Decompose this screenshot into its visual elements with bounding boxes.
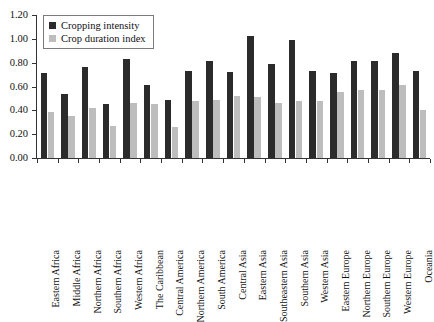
x-axis-tick-mark (244, 159, 245, 163)
x-axis-line (36, 158, 430, 159)
bar (41, 73, 48, 158)
bar (123, 59, 130, 158)
bar-group (202, 15, 223, 158)
x-axis-tick-mark (327, 159, 328, 163)
bar (247, 36, 254, 158)
bar (61, 94, 68, 158)
x-axis-tick-mark (78, 159, 79, 163)
x-axis-tick-label: Northern America (196, 250, 206, 322)
bar (68, 116, 75, 158)
bar (144, 85, 151, 158)
x-axis-tick-mark (389, 159, 390, 163)
bar (130, 103, 137, 158)
bar-group (368, 15, 389, 158)
y-axis: 0.000.200.400.600.801.001.20 (0, 0, 32, 253)
legend-swatch-icon (49, 22, 56, 29)
y-axis-tick-label: 0.00 (10, 153, 28, 163)
x-axis-tick-mark (285, 159, 286, 163)
x-axis-tick-mark (99, 159, 100, 163)
x-axis-tick-mark (140, 159, 141, 163)
x-axis-tick-label: Northern Europe (362, 250, 372, 317)
x-axis-tick-label: Southern Asia (300, 250, 310, 306)
x-axis-tick-mark (430, 159, 431, 163)
bar (268, 64, 275, 158)
bar (192, 101, 199, 158)
bar-group (306, 15, 327, 158)
legend-item-crop-duration-index: Crop duration index (49, 32, 146, 45)
legend-label: Crop duration index (61, 33, 146, 44)
bar (172, 127, 179, 158)
bar (296, 101, 303, 158)
bar (275, 103, 282, 158)
x-axis-tick-label: Western Europe (403, 250, 413, 314)
bar (185, 71, 192, 158)
x-axis-tick-label: Northern Africa (93, 250, 103, 314)
bar-group (223, 15, 244, 158)
bar (289, 40, 296, 158)
bar (358, 90, 365, 158)
bar-group (161, 15, 182, 158)
x-axis-tick-mark (223, 159, 224, 163)
bar (379, 90, 386, 158)
bar-group (389, 15, 410, 158)
legend-swatch-icon (49, 35, 56, 42)
bar (420, 110, 427, 158)
x-axis-tick-label: Southern Africa (113, 250, 123, 314)
bar (392, 53, 399, 158)
x-axis-tick-mark (182, 159, 183, 163)
y-axis-tick-label: 0.60 (10, 82, 28, 92)
bar (213, 100, 220, 158)
x-axis-tick-label: Southeastern Asia (279, 250, 289, 322)
x-axis-tick-mark (120, 159, 121, 163)
bar (413, 71, 420, 158)
x-axis-tick-mark (37, 159, 38, 163)
bar (165, 100, 172, 158)
x-axis-tick-mark (409, 159, 410, 163)
x-axis-tick-label: Eastern Asia (258, 250, 268, 300)
y-axis-tick-label: 0.80 (10, 58, 28, 68)
y-axis-tick-label: 1.20 (10, 10, 28, 20)
x-axis-tick-label: Western Africa (134, 250, 144, 310)
y-axis-tick-label: 0.40 (10, 105, 28, 115)
bar (254, 97, 261, 158)
x-axis-tick-mark (347, 159, 348, 163)
bar (48, 112, 55, 158)
x-axis-tick-mark (306, 159, 307, 163)
x-axis-tick-label: Eastern Europe (341, 250, 351, 311)
y-axis-tick-label: 0.20 (10, 129, 28, 139)
y-axis-tick-label: 1.00 (10, 34, 28, 44)
x-axis-tick-label: Central Asia (238, 250, 248, 300)
x-axis-tick-label: Western Asia (320, 250, 330, 303)
x-axis-tick-mark (202, 159, 203, 163)
x-axis-tick-label: Southern Europe (382, 250, 392, 318)
bar (103, 104, 110, 158)
bar (371, 61, 378, 158)
chart-legend: Cropping intensity Crop duration index (43, 15, 154, 49)
bar-group (347, 15, 368, 158)
legend-label: Cropping intensity (61, 20, 139, 31)
x-axis-tick-label: Eastern Africa (51, 250, 61, 307)
bar (351, 61, 358, 158)
x-axis-tick-label: Middle Africa (72, 250, 82, 306)
bar (206, 61, 213, 158)
bar-group (327, 15, 348, 158)
bar-group (244, 15, 265, 158)
x-axis-tick-mark (161, 159, 162, 163)
bar (234, 96, 241, 158)
bar (309, 71, 316, 158)
bar-group (409, 15, 430, 158)
x-axis-tick-mark (58, 159, 59, 163)
bar (151, 104, 158, 158)
bar-group (285, 15, 306, 158)
bar (89, 108, 96, 158)
bar (399, 85, 406, 158)
bar (337, 92, 344, 158)
x-axis-tick-label: South America (217, 250, 227, 310)
x-axis-tick-mark (368, 159, 369, 163)
x-axis-tick-label: Central America (175, 250, 185, 316)
bar-group (182, 15, 203, 158)
bar (330, 73, 337, 158)
legend-item-cropping-intensity: Cropping intensity (49, 19, 146, 32)
bar-group (265, 15, 286, 158)
